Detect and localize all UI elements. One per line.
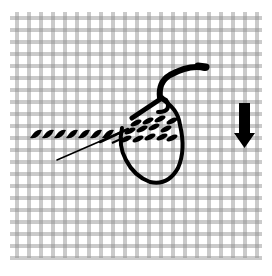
stitch-artwork bbox=[0, 0, 272, 276]
stitch-diagram bbox=[0, 0, 272, 276]
completed-stitches bbox=[30, 130, 114, 139]
needle bbox=[57, 129, 128, 160]
down-arrow-icon bbox=[234, 103, 255, 148]
